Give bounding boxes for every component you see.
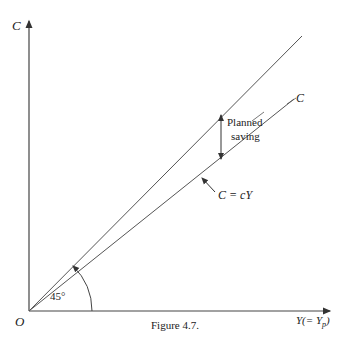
angle-arc (73, 266, 92, 311)
saving-label: saving (231, 130, 260, 142)
y-axis-label: C (12, 18, 21, 34)
c-eq-pointer (202, 178, 215, 192)
figure-caption: Figure 4.7. (151, 319, 199, 331)
line-45-degree (29, 36, 302, 311)
consumption-line-label: C (296, 91, 304, 106)
origin-label: O (15, 314, 24, 330)
planned-label: Planned (227, 116, 262, 128)
angle-label: 45° (50, 290, 65, 302)
x-axis-label: Y(= Yp) (296, 314, 330, 329)
consumption-equation-label: C = cY (218, 188, 252, 203)
